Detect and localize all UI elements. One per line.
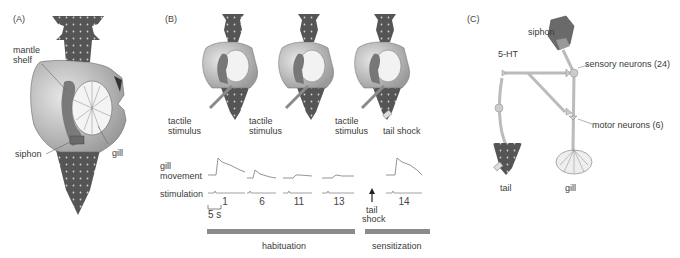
aplysia-body-b1: [203, 14, 258, 120]
label-sensory-neurons: sensory neurons (24): [585, 59, 670, 69]
label-gill: gill: [160, 161, 171, 171]
label-siphon-a: siphon: [15, 149, 42, 159]
stimulation-traces: [208, 191, 422, 193]
label-tactile-3: tactile: [335, 116, 359, 126]
gill-movement-traces: [208, 158, 422, 178]
aplysia-body-b3: [355, 14, 410, 120]
label-shock: shock: [362, 214, 386, 224]
trial-1: 1: [215, 196, 235, 207]
label-shelf: shelf: [13, 55, 32, 65]
label-stimulus-3: stimulus: [335, 126, 368, 136]
aplysia-body-b2: [279, 14, 334, 120]
trial-11: 11: [289, 196, 309, 207]
trial-6: 6: [252, 196, 272, 207]
label-mantle: mantle: [13, 45, 40, 55]
label-stimulus-1: stimulus: [168, 126, 201, 136]
label-sensitization: sensitization: [372, 241, 422, 251]
label-motor-neurons: motor neurons (6): [592, 120, 664, 130]
habituation-bar: [207, 229, 355, 234]
trial-13: 13: [329, 196, 349, 207]
aplysia-body-a: [31, 16, 126, 215]
label-gill-c: gill: [565, 183, 576, 193]
label-stimulation: stimulation: [160, 189, 203, 199]
label-siphon-c: siphon: [528, 27, 555, 37]
neural-circuit: [493, 16, 592, 175]
trial-14: 14: [394, 196, 414, 207]
label-tail-shock-b: tail shock: [383, 126, 421, 136]
label-tail-c: tail: [500, 183, 512, 193]
label-tactile-1: tactile: [168, 116, 192, 126]
tail-shock-arrow-icon: [369, 188, 375, 202]
panel-b-letter: (B): [165, 14, 177, 24]
label-habituation: habituation: [262, 241, 306, 251]
sensitization-bar: [365, 229, 430, 234]
scale-label: 5 s: [208, 210, 221, 220]
label-movement: movement: [160, 171, 202, 181]
panel-c-letter: (C): [467, 14, 480, 24]
label-tactile-2: tactile: [249, 116, 273, 126]
label-gill-a: gill: [112, 148, 123, 158]
label-stimulus-2: stimulus: [249, 126, 282, 136]
label-5ht: 5-HT: [498, 49, 518, 59]
